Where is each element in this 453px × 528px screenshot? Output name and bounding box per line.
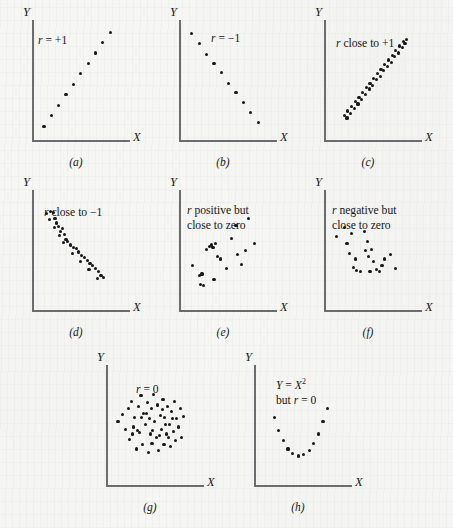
scatter-panel-d: YXr close to −1(d) bbox=[18, 182, 134, 344]
x-axis-label: X bbox=[425, 301, 433, 314]
panel-caption-a: (a) bbox=[56, 156, 96, 168]
y-axis-line bbox=[106, 365, 108, 485]
data-point bbox=[96, 277, 99, 280]
scatter-panel-h: YXY = X2but r = 0(h) bbox=[240, 357, 356, 519]
data-point bbox=[273, 416, 276, 419]
y-axis-label: Y bbox=[315, 6, 322, 19]
data-point bbox=[128, 438, 131, 441]
data-point bbox=[190, 32, 193, 35]
data-point bbox=[380, 264, 383, 267]
data-point bbox=[63, 233, 66, 236]
panel-annotation-e: r positive butclose to zero bbox=[187, 204, 249, 234]
data-point bbox=[157, 449, 160, 452]
data-point bbox=[140, 416, 143, 419]
data-point bbox=[164, 423, 167, 426]
scatter-panel-f: YXr negative butclose to zero(f) bbox=[310, 182, 426, 344]
data-point bbox=[257, 121, 260, 124]
data-point bbox=[160, 428, 163, 431]
data-point bbox=[401, 46, 404, 49]
data-point bbox=[236, 253, 239, 256]
panel-annotation-a: r = +1 bbox=[38, 34, 67, 49]
data-point bbox=[354, 257, 357, 260]
data-point bbox=[383, 257, 386, 260]
data-point bbox=[372, 260, 375, 263]
scatter-panel-g: YXr = 0(g) bbox=[92, 357, 208, 519]
data-point bbox=[291, 452, 294, 455]
data-point bbox=[161, 398, 164, 401]
data-point bbox=[321, 420, 324, 423]
data-point bbox=[174, 439, 177, 442]
panel-caption-e: (e) bbox=[203, 326, 243, 338]
data-point bbox=[353, 107, 356, 110]
x-axis-line bbox=[324, 140, 422, 142]
panel-caption-c: (c) bbox=[348, 156, 388, 168]
data-point bbox=[153, 420, 156, 423]
data-point bbox=[109, 31, 112, 34]
x-axis-label: X bbox=[207, 476, 215, 489]
x-axis-label: X bbox=[355, 476, 363, 489]
data-point bbox=[150, 442, 153, 445]
data-point bbox=[359, 270, 362, 273]
data-point bbox=[156, 403, 159, 406]
data-point bbox=[148, 417, 151, 420]
data-point bbox=[386, 65, 389, 68]
data-point bbox=[131, 432, 134, 435]
panel-caption-h: (h) bbox=[278, 501, 318, 513]
data-point bbox=[198, 42, 201, 45]
data-point bbox=[205, 248, 208, 251]
data-point bbox=[397, 51, 400, 54]
data-point bbox=[202, 284, 205, 287]
data-point bbox=[71, 252, 74, 255]
data-point bbox=[172, 430, 175, 433]
data-point bbox=[219, 257, 222, 260]
x-axis-label: X bbox=[133, 301, 141, 314]
data-point bbox=[50, 114, 53, 117]
y-axis-line bbox=[324, 20, 326, 140]
data-point bbox=[149, 432, 152, 435]
data-point bbox=[42, 125, 45, 128]
data-point bbox=[58, 234, 61, 237]
data-point bbox=[175, 417, 178, 420]
data-point bbox=[147, 451, 150, 454]
scatter-panel-b: YXr = −1(b) bbox=[165, 12, 281, 174]
data-point bbox=[205, 53, 208, 56]
data-point bbox=[180, 436, 183, 439]
data-point bbox=[62, 241, 65, 244]
data-point bbox=[79, 72, 82, 75]
data-point bbox=[348, 252, 351, 255]
data-point bbox=[53, 226, 56, 229]
data-point bbox=[167, 436, 170, 439]
data-point bbox=[389, 253, 392, 256]
data-point bbox=[163, 416, 166, 419]
data-point bbox=[234, 91, 237, 94]
x-axis-line bbox=[179, 140, 277, 142]
data-point bbox=[173, 400, 176, 403]
data-point bbox=[146, 401, 149, 404]
data-point bbox=[379, 75, 382, 78]
data-point bbox=[61, 227, 64, 230]
data-point bbox=[240, 263, 243, 266]
data-point bbox=[200, 272, 203, 275]
panel-caption-g: (g) bbox=[130, 501, 170, 513]
data-point bbox=[366, 240, 369, 243]
data-point bbox=[57, 225, 60, 228]
data-point bbox=[214, 242, 217, 245]
data-point bbox=[225, 267, 228, 270]
data-point bbox=[53, 217, 56, 220]
panel-caption-b: (b) bbox=[203, 156, 243, 168]
data-point bbox=[94, 267, 97, 270]
data-point bbox=[179, 407, 182, 410]
data-point bbox=[352, 266, 355, 269]
data-point bbox=[234, 224, 237, 227]
data-point bbox=[211, 246, 214, 249]
data-point bbox=[277, 429, 280, 432]
data-point bbox=[102, 276, 105, 279]
data-point bbox=[394, 267, 397, 270]
x-axis-label: X bbox=[280, 301, 288, 314]
data-point bbox=[124, 428, 127, 431]
data-point bbox=[145, 412, 148, 415]
data-point bbox=[326, 407, 329, 410]
panel-annotation-h: Y = X2but r = 0 bbox=[276, 379, 316, 409]
data-point bbox=[94, 51, 97, 54]
panel-annotation-b: r = −1 bbox=[211, 32, 240, 47]
